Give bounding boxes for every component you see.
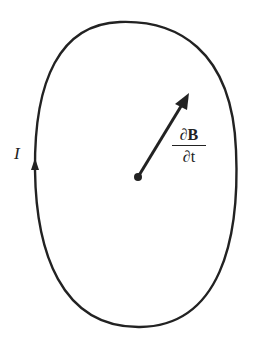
fraction-bar (172, 145, 206, 146)
fraction-denominator: ∂t (172, 148, 206, 165)
current-label: I (14, 144, 20, 164)
dB-dt-label: ∂B ∂t (172, 126, 206, 165)
b-field-symbol: B (188, 126, 199, 143)
current-direction-arrow-icon (31, 158, 39, 170)
fraction-numerator: ∂B (172, 126, 206, 143)
loop-diagram (0, 0, 254, 345)
vector-origin-dot (134, 173, 142, 181)
partial-symbol: ∂ (180, 126, 188, 143)
vector-arrowhead-icon (175, 93, 189, 110)
